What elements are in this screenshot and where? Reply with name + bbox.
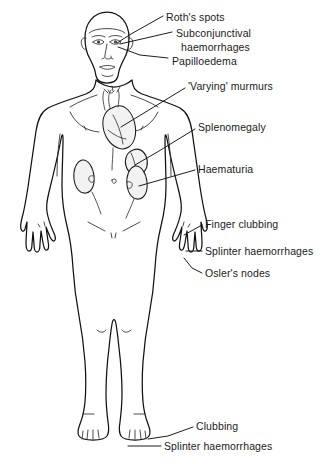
label-varying-murmurs: 'Varying' murmurs	[188, 80, 273, 93]
label-roths-spots: Roth's spots	[166, 11, 225, 24]
label-papilloedema: Papilloedema	[172, 55, 237, 68]
label-splenomegaly: Splenomegaly	[198, 121, 266, 134]
label-clubbing-toe: Clubbing	[196, 420, 238, 433]
diagram-canvas	[0, 0, 330, 464]
leader-oslers-nodes	[184, 258, 202, 273]
endocarditis-signs-diagram: Roth's spots Subconjunctival haemorrhage…	[0, 0, 330, 464]
human-figure-outline	[21, 12, 208, 440]
label-haemorrhages-eye: haemorrhages	[181, 41, 250, 54]
label-subconjunctival: Subconjunctival	[176, 27, 251, 40]
leader-clubbing-toe	[148, 427, 193, 439]
label-splinter-haemorrhages-foot: Splinter haemorrhages	[164, 440, 272, 453]
left-pupil	[97, 41, 100, 44]
label-splinter-haemorrhages-hand: Splinter haemorrhages	[205, 245, 313, 258]
label-haematuria: Haematuria	[198, 163, 253, 176]
label-oslers-nodes: Osler's nodes	[205, 267, 270, 280]
head-outline	[85, 12, 129, 83]
label-finger-clubbing: Finger clubbing	[205, 218, 278, 231]
